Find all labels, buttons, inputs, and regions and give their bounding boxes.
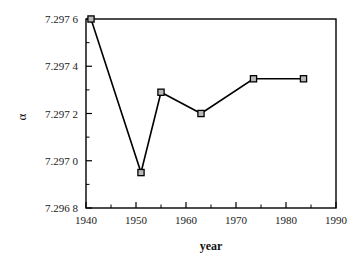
line-chart: 194019501960197019801990 7.296 87.297 07… bbox=[0, 0, 360, 267]
y-tick-label: 7.297 6 bbox=[45, 13, 79, 25]
x-tick-label: 1950 bbox=[125, 214, 148, 226]
y-tick-labels: 7.296 87.297 07.297 27.297 47.297 6 bbox=[45, 13, 79, 214]
data-point-marker bbox=[158, 89, 164, 95]
data-point-marker bbox=[88, 16, 94, 22]
data-series bbox=[88, 16, 307, 176]
x-tick-label: 1970 bbox=[225, 214, 248, 226]
plot-frame bbox=[86, 19, 336, 208]
x-axis-title: year bbox=[200, 239, 223, 253]
data-point-marker bbox=[250, 76, 256, 82]
chart-page: 194019501960197019801990 7.296 87.297 07… bbox=[0, 0, 360, 267]
y-tick-label: 7.297 2 bbox=[45, 108, 78, 120]
x-tick-label: 1940 bbox=[75, 214, 98, 226]
y-tick-label: 7.297 4 bbox=[45, 60, 79, 72]
data-point-marker bbox=[300, 76, 306, 82]
x-tick-label: 1960 bbox=[175, 214, 198, 226]
data-point-marker bbox=[138, 169, 144, 175]
y-tick-label: 7.296 8 bbox=[45, 202, 79, 214]
data-point-marker bbox=[198, 110, 204, 116]
x-tick-label: 1990 bbox=[325, 214, 348, 226]
y-tick-label: 7.297 0 bbox=[45, 155, 79, 167]
y-axis-title: α bbox=[14, 113, 29, 120]
axis-ticks bbox=[86, 19, 336, 208]
x-tick-label: 1980 bbox=[275, 214, 298, 226]
series-line bbox=[91, 19, 304, 173]
x-tick-labels: 194019501960197019801990 bbox=[75, 214, 348, 226]
